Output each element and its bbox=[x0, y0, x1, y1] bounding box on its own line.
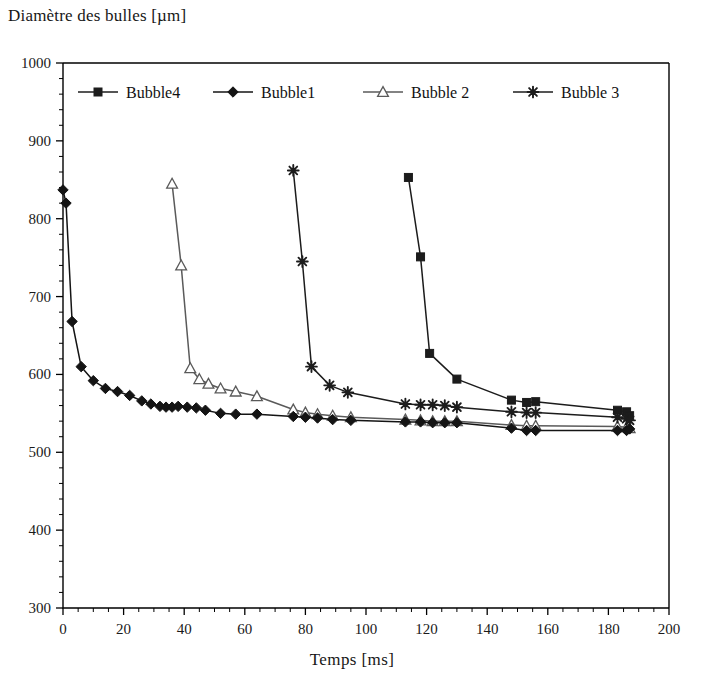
data-point-marker bbox=[400, 417, 410, 427]
y-tick-label: 1000 bbox=[21, 55, 51, 71]
x-tick-label: 100 bbox=[355, 621, 378, 637]
data-point-marker bbox=[112, 386, 122, 396]
data-point-marker bbox=[167, 178, 178, 188]
data-point-marker bbox=[182, 402, 192, 412]
data-point-marker bbox=[297, 256, 308, 267]
data-point-marker bbox=[137, 396, 147, 406]
data-point-marker bbox=[415, 417, 425, 427]
data-point-marker bbox=[200, 405, 210, 415]
data-point-marker bbox=[530, 407, 541, 418]
x-tick-label: 0 bbox=[59, 621, 67, 637]
data-point-marker bbox=[124, 390, 134, 400]
y-tick-label: 900 bbox=[29, 133, 52, 149]
legend-item-bubble-3[interactable]: Bubble 3 bbox=[513, 84, 619, 101]
axis-frame bbox=[63, 63, 669, 608]
series-line bbox=[293, 170, 629, 420]
series-bubble-2 bbox=[167, 178, 635, 432]
legend-item-bubble4[interactable]: Bubble4 bbox=[78, 84, 180, 101]
data-point-marker bbox=[146, 399, 156, 409]
data-point-marker bbox=[453, 375, 461, 383]
data-point-marker bbox=[426, 349, 434, 357]
series-bubble1 bbox=[58, 185, 635, 436]
x-tick-label: 40 bbox=[177, 621, 192, 637]
data-point-marker bbox=[506, 406, 517, 417]
data-point-marker bbox=[404, 173, 412, 181]
x-tick-label: 180 bbox=[597, 621, 620, 637]
data-point-marker bbox=[231, 409, 241, 419]
data-point-marker bbox=[185, 363, 196, 373]
data-point-marker bbox=[523, 398, 531, 406]
data-point-marker bbox=[252, 409, 262, 419]
data-point-marker bbox=[427, 418, 437, 428]
data-point-marker bbox=[67, 316, 77, 326]
data-point-marker bbox=[100, 383, 110, 393]
legend-label: Bubble 2 bbox=[411, 84, 469, 101]
x-axis-title: Temps [ms] bbox=[0, 650, 704, 670]
data-point-marker bbox=[400, 399, 411, 410]
y-tick-label: 400 bbox=[29, 522, 52, 538]
legend-item-bubble-2[interactable]: Bubble 2 bbox=[363, 84, 469, 101]
data-point-marker bbox=[215, 383, 226, 393]
data-point-marker bbox=[452, 418, 462, 428]
y-tick-label: 800 bbox=[29, 211, 52, 227]
data-point-marker bbox=[176, 260, 187, 270]
series-bubble-3 bbox=[288, 165, 635, 426]
data-point-marker bbox=[452, 402, 463, 413]
data-point-marker bbox=[427, 399, 438, 410]
data-point-marker bbox=[58, 185, 68, 195]
data-point-marker bbox=[306, 361, 317, 372]
series-line bbox=[172, 184, 630, 428]
data-point-marker bbox=[415, 399, 426, 410]
legend-label: Bubble 3 bbox=[561, 84, 619, 101]
plot-area: 3004005006007008009001000020406080100120… bbox=[0, 0, 704, 690]
legend-item-bubble1[interactable]: Bubble1 bbox=[213, 84, 315, 101]
y-tick-label: 700 bbox=[29, 289, 52, 305]
data-point-marker bbox=[440, 418, 450, 428]
data-point-marker bbox=[439, 400, 450, 411]
data-point-marker bbox=[532, 398, 540, 406]
legend-marker-icon bbox=[94, 88, 102, 96]
x-tick-label: 80 bbox=[298, 621, 313, 637]
x-tick-label: 60 bbox=[237, 621, 252, 637]
x-tick-label: 200 bbox=[658, 621, 681, 637]
data-point-marker bbox=[507, 396, 515, 404]
legend-marker-icon bbox=[228, 87, 238, 97]
series-line bbox=[408, 177, 629, 415]
x-tick-label: 160 bbox=[537, 621, 560, 637]
data-point-marker bbox=[417, 253, 425, 261]
data-point-marker bbox=[324, 380, 335, 391]
data-point-marker bbox=[215, 408, 225, 418]
x-tick-label: 120 bbox=[415, 621, 438, 637]
y-tick-label: 300 bbox=[29, 600, 52, 616]
chart-container: Diamètre des bulles [µm] 300400500600700… bbox=[0, 0, 704, 690]
data-point-marker bbox=[612, 412, 623, 423]
series-bubble4 bbox=[404, 173, 633, 419]
data-point-marker bbox=[288, 165, 299, 176]
legend-label: Bubble1 bbox=[261, 84, 315, 101]
y-tick-label: 600 bbox=[29, 366, 52, 382]
data-point-marker bbox=[191, 403, 201, 413]
x-tick-label: 140 bbox=[476, 621, 499, 637]
y-tick-label: 500 bbox=[29, 444, 52, 460]
legend-marker-icon bbox=[528, 87, 539, 98]
x-tick-label: 20 bbox=[116, 621, 131, 637]
data-point-marker bbox=[342, 387, 353, 398]
legend-label: Bubble4 bbox=[126, 84, 180, 101]
